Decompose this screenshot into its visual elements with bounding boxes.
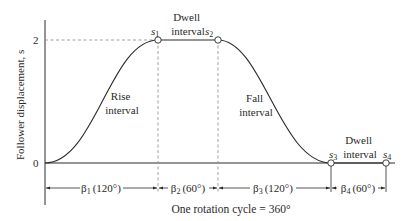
y-tick-2: 2: [33, 34, 39, 46]
svg-text:β3(120°): β3(120°): [253, 182, 293, 196]
svg-text:β4(60°): β4(60°): [341, 182, 376, 196]
point-s4-label: s4: [383, 148, 391, 162]
rise-interval-label: Rise interval: [105, 90, 139, 116]
point-s2-marker: [215, 37, 221, 43]
fall-interval-label: Fall interval: [239, 92, 273, 118]
svg-text:β2(60°): β2(60°): [171, 182, 206, 196]
point-s1-label: s1: [151, 25, 159, 39]
displacement-diagram: 2 0 Follower displacement, s s1 s2 s3 s4…: [0, 0, 402, 221]
y-tick-0: 0: [33, 157, 39, 169]
dwell-interval-bottom-label: Dwell interval: [343, 134, 377, 160]
dimension-beta4: β4(60°): [332, 182, 385, 196]
displacement-curve: [45, 40, 386, 163]
y-axis-label: Follower displacement, s: [14, 50, 26, 160]
dwell-interval-top-label: Dwell interval: [171, 11, 205, 37]
point-s3-label: s3: [329, 148, 337, 162]
dimension-beta1: β1(120°): [46, 182, 157, 196]
dimension-beta3: β3(120°): [219, 182, 330, 196]
svg-text:β1(120°): β1(120°): [81, 182, 121, 196]
dimension-beta2: β2(60°): [159, 182, 217, 196]
rotation-cycle-caption: One rotation cycle = 360°: [171, 203, 290, 216]
point-s2-label: s2: [205, 25, 213, 39]
